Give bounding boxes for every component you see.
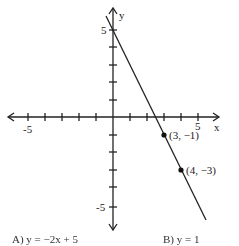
answer-choice-b: B) y = 1 <box>163 233 199 245</box>
point-3-neg1 <box>161 132 166 137</box>
y-tick-label-5: 5 <box>101 24 107 36</box>
point-label-4-neg3: (4, −3) <box>186 164 216 177</box>
y-axis-label: y <box>119 9 125 21</box>
point-label-3-neg1: (3, −1) <box>169 129 199 142</box>
x-tick-label-neg5: -5 <box>23 123 33 135</box>
y-tick-label-neg5: -5 <box>96 201 106 213</box>
x-axis-label: x <box>214 121 220 133</box>
answer-choice-a: A) y = −2x + 5 <box>12 233 78 245</box>
point-4-neg3 <box>178 167 183 172</box>
graph-line <box>106 16 206 220</box>
y-axis <box>109 8 117 230</box>
coordinate-plane: y x -5 5 5 -5 (3, −1) (4, −3) <box>0 0 239 246</box>
